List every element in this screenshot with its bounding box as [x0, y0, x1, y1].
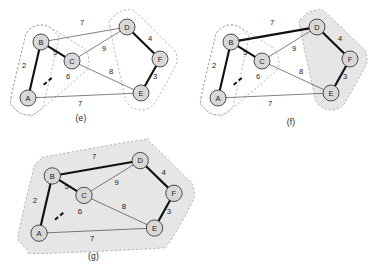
edge-weight-CE: 8 [299, 67, 303, 76]
edge-weight-BD: 7 [92, 152, 96, 161]
node-label-F: F [158, 55, 163, 64]
edge-weight-AC: 6 [78, 207, 82, 216]
node-label-C: C [69, 57, 75, 66]
node-label-D: D [124, 23, 129, 32]
edge-weight-AE: 7 [90, 234, 94, 243]
node-label-B: B [50, 172, 55, 181]
edge-weight-BD: 7 [270, 18, 274, 27]
node-label-B: B [39, 38, 44, 47]
graph-edge-AB [220, 50, 229, 90]
node-label-D: D [314, 23, 319, 32]
edge-weight-DF: 4 [148, 34, 152, 43]
edge-weight-CE: 8 [122, 202, 126, 211]
edge-weight-CD: 9 [292, 44, 296, 53]
panel-caption-f: (f) [196, 117, 380, 127]
figure-panel-e: 256798743ABCDEF (e) [0, 0, 190, 136]
graph-edge-AE [226, 93, 323, 97]
node-label-A: A [26, 94, 31, 103]
graph-edge-AB [30, 50, 39, 90]
edge-weight-AB: 2 [212, 61, 216, 70]
edge-weight-BC: 5 [64, 182, 68, 191]
figure-panel-f: 256798743ABCDEF (f) [190, 0, 380, 136]
figure-panel-g: 256798743ABCDEF (g) [10, 133, 205, 272]
node-label-B: B [229, 38, 234, 47]
node-label-C: C [259, 57, 265, 66]
edge-weight-AC: 6 [66, 72, 70, 81]
graph-edge-AE [36, 93, 133, 97]
edge-weight-AE: 7 [78, 99, 82, 108]
edge-weight-AE: 7 [268, 99, 272, 108]
edge-weight-BC: 5 [53, 48, 57, 57]
node-label-A: A [216, 94, 221, 103]
node-label-F: F [348, 55, 353, 64]
graph-edge-CD [79, 31, 120, 57]
edge-weight-AB: 2 [33, 196, 37, 205]
panel-caption-e: (e) [0, 113, 176, 123]
graph-edge-AC [44, 76, 54, 85]
edge-weight-DF: 4 [162, 168, 167, 177]
edge-weight-DF: 4 [338, 34, 342, 43]
node-label-D: D [137, 156, 143, 165]
edge-weight-AC: 6 [256, 72, 260, 81]
graph-edge-CE [79, 64, 133, 89]
node-label-E: E [139, 89, 144, 98]
edge-weight-CE: 8 [109, 67, 113, 76]
graph-edge-AC [234, 76, 244, 85]
node-label-E: E [329, 89, 334, 98]
edge-weight-EF: 3 [153, 72, 157, 81]
edge-weight-AB: 2 [22, 61, 26, 70]
edge-weight-EF: 3 [343, 72, 347, 81]
node-layer: ABCDEF [20, 19, 168, 106]
node-label-E: E [152, 224, 157, 233]
edge-weight-CD: 9 [115, 178, 119, 187]
edge-weight-BD: 7 [80, 18, 84, 27]
panel-caption-g: (g) [0, 251, 191, 261]
node-label-C: C [81, 191, 87, 200]
edge-weight-CD: 9 [102, 44, 106, 53]
graph-canvas-f: 256798743ABCDEF [190, 0, 380, 136]
edge-weight-BC: 5 [243, 48, 247, 57]
node-label-F: F [172, 189, 177, 198]
edge-weight-EF: 3 [167, 207, 171, 216]
